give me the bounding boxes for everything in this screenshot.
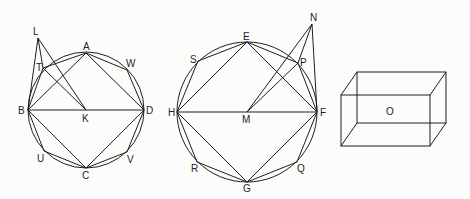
segment-rh <box>177 112 197 162</box>
segment-dv <box>127 110 144 152</box>
point-label-d: D <box>146 105 153 116</box>
point-label-e: E <box>243 31 250 42</box>
front-face <box>341 95 430 146</box>
point-label-q: Q <box>297 163 305 174</box>
geometry-diagram: LTAWBKDUCV NESPHMFRGQ O <box>0 0 470 199</box>
point-label-v: V <box>127 154 134 165</box>
segment-se <box>198 42 247 61</box>
segment-qg <box>247 162 297 182</box>
point-label-p: P <box>300 57 307 68</box>
segment-fg <box>247 112 317 182</box>
segment-cu <box>44 151 86 168</box>
segment-ub <box>28 110 44 151</box>
segment-dc <box>86 110 144 168</box>
point-label-r: R <box>191 163 198 174</box>
point-label-n: N <box>310 12 317 23</box>
segment-lb <box>28 38 38 110</box>
inscribed-polygon-figure-m: NESPHMFRGQ <box>168 12 326 194</box>
point-label-m: M <box>242 114 250 125</box>
point-label-a: A <box>83 41 90 52</box>
segment-pm <box>247 63 298 112</box>
depth-edge <box>341 72 357 95</box>
depth-edge <box>341 123 357 146</box>
point-label-k: K <box>82 113 89 124</box>
point-label-c: C <box>82 170 89 181</box>
point-label-u: U <box>37 153 44 164</box>
point-label-f: F <box>320 107 326 118</box>
segment-gh <box>177 112 247 182</box>
segment-he <box>177 42 247 112</box>
point-label-h: H <box>168 107 175 118</box>
segment-fq <box>297 112 317 162</box>
point-label-g: G <box>243 183 251 194</box>
segment-hs <box>177 61 198 112</box>
point-label-s: S <box>190 54 197 65</box>
segment-gr <box>197 162 247 182</box>
segment-nm <box>247 24 312 112</box>
depth-edge <box>430 72 446 95</box>
segment-bt <box>28 68 43 110</box>
rectangular-prism-figure-o: O <box>341 72 446 146</box>
segment-nf <box>312 24 317 112</box>
depth-edge <box>430 123 446 146</box>
point-label-l: L <box>33 26 39 37</box>
segment-lk <box>38 38 86 110</box>
point-label-t: T <box>36 62 42 73</box>
point-label-w: W <box>126 58 136 69</box>
segment-wd <box>127 70 144 110</box>
back-face <box>357 72 446 123</box>
box-label-o: O <box>386 106 394 117</box>
segment-vc <box>86 152 127 168</box>
point-label-b: B <box>18 105 25 116</box>
inscribed-polygon-figure-k: LTAWBKDUCV <box>18 26 153 181</box>
